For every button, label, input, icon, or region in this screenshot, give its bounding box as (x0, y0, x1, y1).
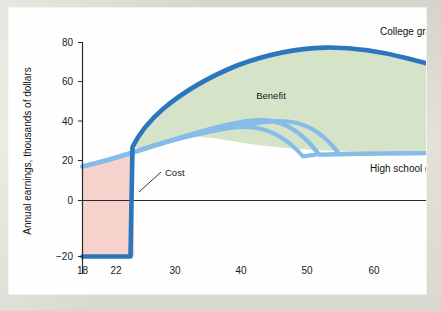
x-axis-tick-labels: 18 22 30 40 50 60 70 (77, 265, 426, 276)
y-tick-label-neg20: −20 (56, 251, 73, 262)
cost-area (83, 152, 135, 257)
x-tick-label-40: 40 (235, 265, 247, 276)
figure-page: 80 60 40 20 0 −20 18 22 30 40 50 60 70 A… (0, 0, 441, 311)
y-axis-title: Annual earnings, thousands of dollars (22, 67, 33, 234)
y-tick-label-40: 40 (62, 116, 74, 127)
chart-card: 80 60 40 20 0 −20 18 22 30 40 50 60 70 A… (9, 8, 426, 294)
x-tick-label-18: 18 (77, 265, 89, 276)
y-tick-label-20: 20 (62, 155, 74, 166)
college-graduate-label: College graduate (380, 26, 426, 37)
x-tick-label-50: 50 (301, 265, 313, 276)
y-tick-label-60: 60 (62, 76, 74, 87)
x-tick-label-30: 30 (169, 265, 181, 276)
x-tick-label-22: 22 (110, 265, 122, 276)
benefit-label: Benefit (256, 90, 286, 101)
cost-label: Cost (165, 167, 185, 178)
y-axis-tick-labels: 80 60 40 20 0 −20 (56, 37, 73, 262)
y-tick-label-0: 0 (67, 195, 73, 206)
earnings-chart: 80 60 40 20 0 −20 18 22 30 40 50 60 70 A… (9, 8, 426, 294)
cost-leader-line (139, 172, 161, 192)
highschool-graduate-label: High school graduate (370, 163, 426, 174)
y-tick-label-80: 80 (62, 37, 74, 48)
x-tick-label-60: 60 (368, 265, 380, 276)
y-axis-ticks (78, 43, 83, 257)
